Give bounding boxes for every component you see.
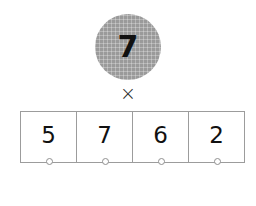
multiplier-token[interactable]: 7	[95, 14, 161, 80]
anchor-dot-tens[interactable]	[158, 158, 165, 165]
multiplication-worksheet: 7 × 5 7 6 2	[0, 0, 256, 206]
digit-value-hundreds: 7	[97, 124, 112, 147]
multiplication-sign-icon: ×	[0, 84, 256, 103]
multiplier-value: 7	[118, 32, 139, 62]
anchor-dot-ones[interactable]	[214, 158, 221, 165]
digit-value-thousands: 5	[41, 124, 56, 147]
anchor-dot-thousands[interactable]	[46, 158, 53, 165]
anchor-dot-hundreds[interactable]	[102, 158, 109, 165]
digit-value-ones: 2	[209, 124, 224, 147]
digit-cell-thousands[interactable]: 5	[21, 112, 77, 162]
multiplicand-digit-strip: 5 7 6 2	[20, 111, 245, 163]
digit-value-tens: 6	[153, 124, 168, 147]
digit-cell-hundreds[interactable]: 7	[77, 112, 133, 162]
digit-cell-ones[interactable]: 2	[189, 112, 244, 162]
digit-cell-tens[interactable]: 6	[133, 112, 189, 162]
